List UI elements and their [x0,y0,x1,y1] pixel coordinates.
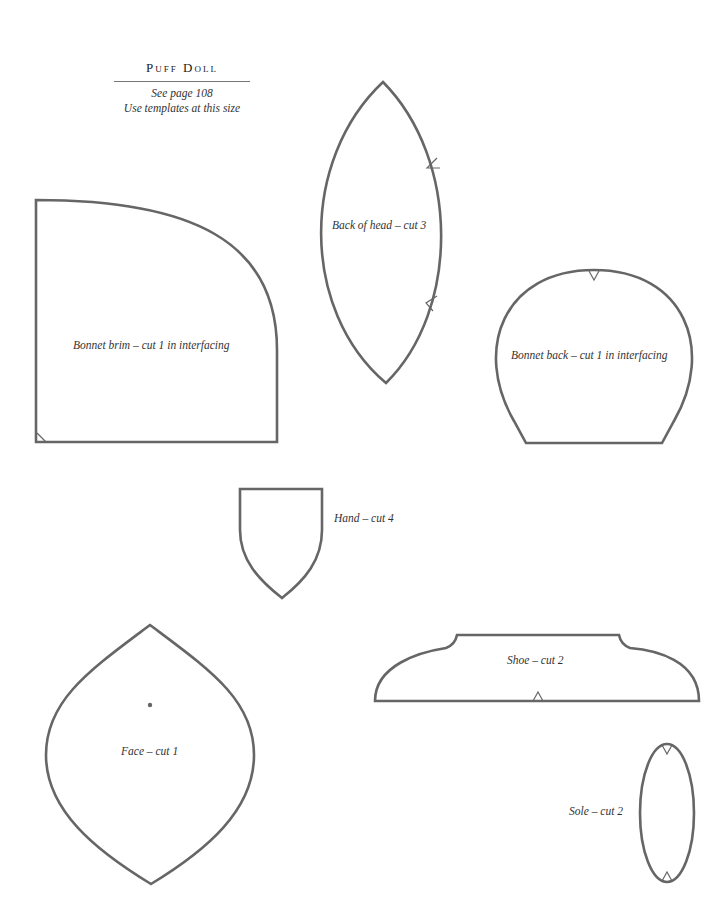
notch-marker [533,692,543,701]
notch-marker [589,271,599,280]
sole-label: Sole – cut 2 [569,805,623,817]
bonnet-brim-label: Bonnet brim – cut 1 in interfacing [73,339,230,351]
hand-template [240,489,322,598]
shoe-label: Shoe – cut 2 [507,654,564,666]
hand-label: Hand – cut 4 [334,512,394,524]
bonnet-back-label: Bonnet back – cut 1 in interfacing [511,349,668,361]
eye-mark [148,703,152,707]
back-of-head-label: Back of head – cut 3 [332,219,426,231]
notch-marker [662,745,672,754]
face-label: Face – cut 1 [121,745,178,757]
back-of-head-template [321,82,441,383]
corner-marker [37,433,46,442]
shoe-template [375,635,699,701]
bonnet-brim-template [36,200,277,442]
notch-marker [662,872,672,881]
sole-template [640,744,694,882]
